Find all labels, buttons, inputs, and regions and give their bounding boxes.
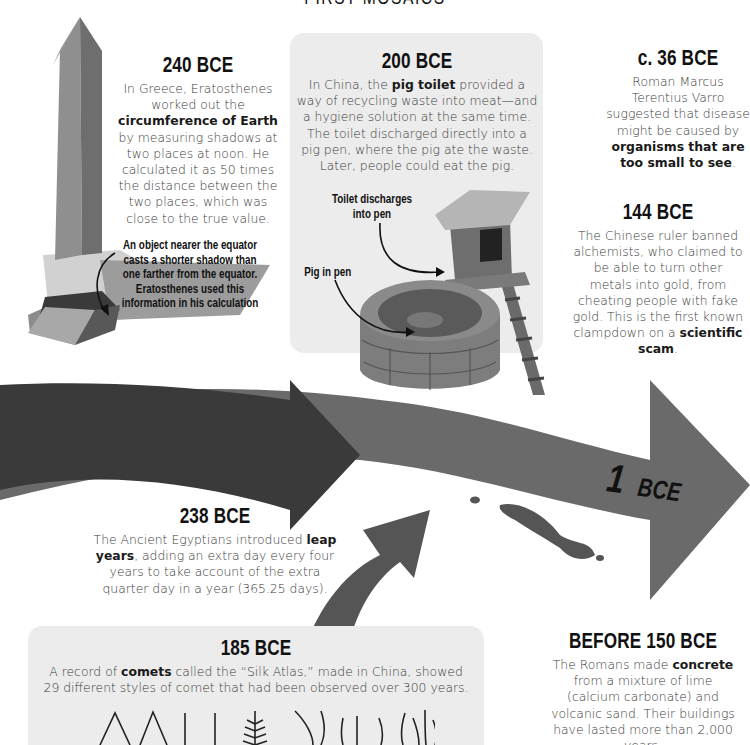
entry-date: 200 BCE bbox=[323, 48, 512, 74]
entry-text: Roman Marcus Terentius Varro suggested t… bbox=[603, 74, 750, 171]
entry-date: 185 BCE bbox=[88, 635, 425, 661]
entry-text: In Greece, Eratosthenes worked out the c… bbox=[118, 81, 278, 227]
callout-arrows bbox=[290, 220, 460, 360]
entry-36-bce: c. 36 BCE Roman Marcus Terentius Varro s… bbox=[603, 45, 750, 171]
entry-before-150-bce: BEFORE 150 BCE The Romans made concrete … bbox=[548, 628, 738, 745]
entry-date: 144 BCE bbox=[591, 199, 725, 225]
entry-text: A record of comets called the “Silk Atla… bbox=[40, 664, 472, 696]
obelisk-shadow-callout: An object nearer the equator casts a sho… bbox=[120, 238, 259, 311]
entry-date-suffix: BCE bbox=[635, 472, 682, 509]
entry-200-bce: 200 BCE In China, the pig toilet provide… bbox=[296, 48, 538, 174]
entry-240-bce: 240 BCE In Greece, Eratosthenes worked o… bbox=[118, 52, 278, 227]
entry-date: 238 BCE bbox=[118, 503, 313, 529]
entry-date: BEFORE 150 BCE bbox=[569, 628, 717, 654]
entry-text: The Chinese ruler banned alchemists, who… bbox=[572, 228, 744, 358]
entry-text: The Ancient Egyptians introduced leap ye… bbox=[90, 532, 340, 597]
entry-date-number: 1 bbox=[604, 455, 628, 502]
callout-arrow-icon bbox=[90, 250, 120, 320]
entry-238-bce: 238 BCE The Ancient Egyptians introduced… bbox=[90, 503, 340, 597]
entry-text: In China, the pig toilet provided a way … bbox=[296, 77, 538, 174]
callout-toilet-discharges: Toilet discharges into pen bbox=[331, 192, 413, 221]
entry-144-bce: 144 BCE The Chinese ruler banned alchemi… bbox=[572, 199, 744, 358]
entry-185-bce: 185 BCE A record of comets called the “S… bbox=[40, 635, 472, 696]
comet-styles-drawings bbox=[95, 708, 435, 745]
entry-text: The Romans made concrete from a mixture … bbox=[548, 657, 738, 745]
entry-date: c. 36 BCE bbox=[620, 45, 737, 71]
entry-date: 240 BCE bbox=[136, 52, 261, 78]
